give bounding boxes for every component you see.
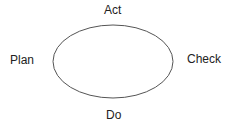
label-check: Check	[187, 52, 221, 66]
label-do: Do	[106, 108, 121, 122]
cycle-ellipse	[53, 25, 173, 98]
label-act: Act	[104, 3, 121, 17]
label-plan: Plan	[10, 53, 34, 67]
